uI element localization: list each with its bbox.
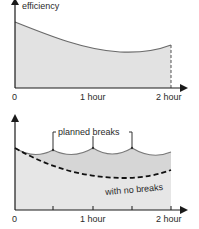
bottom-chart: planned breaks with no breaks 0 1 hour 2… (11, 114, 188, 224)
break-point-3 (131, 147, 133, 149)
break-point-1 (52, 149, 54, 151)
bottom-tick-label-2: 2 hour (156, 214, 182, 224)
top-efficiency-area (15, 22, 171, 88)
top-tick-label-0: 0 (12, 92, 17, 102)
bottom-x-axis-arrow-icon (180, 206, 188, 214)
top-y-axis-arrow-icon (11, 0, 19, 5)
top-tick-label-2: 2 hour (156, 92, 182, 102)
planned-breaks-label: planned breaks (58, 127, 120, 137)
bottom-tick-label-1: 1 hour (80, 214, 106, 224)
bottom-tick-label-0: 0 (12, 214, 17, 224)
top-y-label: efficiency (22, 1, 60, 11)
top-tick-label-1: 1 hour (80, 92, 106, 102)
efficiency-charts: efficiency 0 1 hour 2 hour (0, 0, 199, 229)
bottom-y-axis-arrow-icon (11, 114, 19, 122)
top-chart: efficiency 0 1 hour 2 hour (11, 0, 188, 102)
break-point-2 (92, 147, 94, 149)
top-x-axis-arrow-icon (180, 84, 188, 92)
